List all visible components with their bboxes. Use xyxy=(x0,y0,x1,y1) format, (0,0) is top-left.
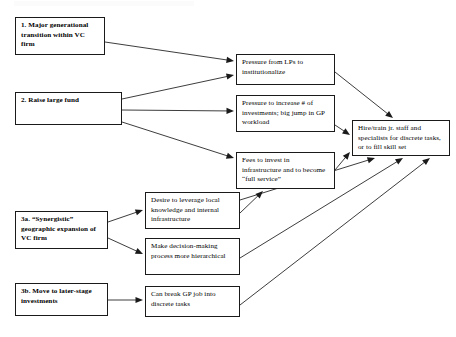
node-label: Can break GP job into discrete tasks xyxy=(151,290,235,309)
edge-m4-to-m3 xyxy=(240,191,263,213)
node-hire-train-jr-staff-and-specialists: Hire/train jr. staff and specialists for… xyxy=(352,120,450,156)
edge-m2-to-r1 xyxy=(335,125,350,135)
node-label: Make decision-making process more hierar… xyxy=(151,242,235,261)
node-make-decision-making-hierarchical: Make decision-making process more hierar… xyxy=(145,238,240,275)
edge-n2-to-m3 xyxy=(122,122,234,159)
edge-m1-to-r1 xyxy=(335,72,393,118)
node-synergistic-geographic-expansion: 3a. “Synergistic” geographic expansion o… xyxy=(15,211,108,249)
edge-n3a-to-m4 xyxy=(108,210,143,223)
node-label: Fees to invest in infrastructure and to … xyxy=(242,156,330,185)
node-label: 3a. “Synergistic” geographic expansion o… xyxy=(21,215,103,244)
edge-n3b-to-m6 xyxy=(108,297,143,303)
node-major-generational-transition: 1. Major generational transition within … xyxy=(15,17,105,55)
node-move-to-later-stage-investments: 3b. Move to later-stage investments xyxy=(15,283,108,316)
node-label: 3b. Move to later-stage investments xyxy=(21,287,103,306)
edge-m3-to-r1 xyxy=(335,152,350,170)
diagram-canvas: 1. Major generational transition within … xyxy=(0,0,456,337)
edge-n1-to-m1 xyxy=(105,42,234,63)
node-label: Pressure to increase # of investments; b… xyxy=(242,99,330,128)
node-label: Pressure from LPs to institutionalize xyxy=(242,58,330,77)
node-label: 2. Raise large fund xyxy=(21,96,117,106)
edge-n3a-to-m5 xyxy=(108,238,143,254)
node-desire-to-leverage-local-knowledge: Desire to leverage local knowledge and i… xyxy=(145,192,240,229)
edge-n2-to-m1 xyxy=(122,74,234,99)
node-pressure-from-lps: Pressure from LPs to institutionalize xyxy=(236,54,335,85)
node-label: Desire to leverage local knowledge and i… xyxy=(151,196,235,225)
node-label: Hire/train jr. staff and specialists for… xyxy=(358,124,445,153)
node-fees-to-invest-in-infrastructure: Fees to invest in infrastructure and to … xyxy=(236,152,335,189)
scan-artifact xyxy=(14,1,194,6)
node-can-break-gp-job-into-discrete-tasks: Can break GP job into discrete tasks xyxy=(145,286,240,317)
node-pressure-to-increase-investments: Pressure to increase # of investments; b… xyxy=(236,95,335,132)
node-raise-large-fund: 2. Raise large fund xyxy=(15,92,122,125)
edge-n2-to-m2 xyxy=(122,108,234,114)
node-label: 1. Major generational transition within … xyxy=(21,21,100,50)
